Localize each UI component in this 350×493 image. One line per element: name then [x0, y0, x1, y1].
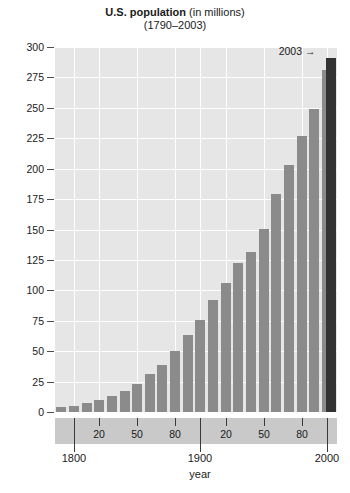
bar: [195, 320, 205, 412]
x-axis-minor-tick: [226, 418, 227, 426]
y-axis-tick-label: 25: [10, 377, 44, 387]
x-axis-minor-tick: [175, 418, 176, 426]
y-axis-tick-mark: [47, 321, 54, 322]
bar: [145, 374, 155, 412]
y-axis-tick-label: 300: [10, 42, 44, 52]
gridline-vertical: [74, 47, 75, 412]
y-axis-tick-label: 200: [10, 164, 44, 174]
gridline-horizontal: [55, 230, 337, 231]
y-axis-tick-mark: [47, 108, 54, 109]
bar: [157, 365, 167, 412]
x-axis-title: year: [170, 468, 230, 481]
y-axis-tick-mark: [47, 199, 54, 200]
x-axis-minor-tick: [264, 418, 265, 426]
annotation-2003: 2003→: [279, 45, 316, 57]
bar: [221, 283, 231, 412]
bar: [284, 165, 294, 412]
chart-title-subtext: (in millions): [186, 6, 245, 18]
y-axis-tick-mark: [47, 351, 54, 352]
bar: [259, 229, 269, 412]
y-axis-tick-mark: [47, 169, 54, 170]
x-axis-minor-label: 20: [211, 428, 241, 440]
bar: [132, 384, 142, 412]
gridline-horizontal: [55, 108, 337, 109]
gridline-horizontal: [55, 77, 337, 78]
bar: [271, 194, 281, 412]
gridline-vertical: [137, 47, 138, 412]
arrow-right-icon: →: [305, 45, 316, 57]
x-axis-minor-tick: [302, 418, 303, 426]
x-axis-minor-tick: [137, 418, 138, 426]
x-axis-major-tick: [327, 418, 328, 452]
gridline-horizontal: [55, 138, 337, 139]
annotation-label: 2003: [279, 45, 302, 57]
bar: [297, 136, 307, 412]
population-bar-chart: U.S. population (in millions) (1790–2003…: [0, 0, 350, 493]
x-axis-major-tick: [200, 418, 201, 452]
y-axis-tick-label: 100: [10, 285, 44, 295]
chart-title-main: U.S. population: [105, 6, 186, 18]
x-axis-strip: 205080205080: [55, 418, 337, 444]
x-axis-minor-label: 80: [160, 428, 190, 440]
x-axis-major-tick: [74, 418, 75, 452]
gridline-horizontal: [55, 290, 337, 291]
bar: [94, 400, 104, 412]
y-axis-tick-label: 75: [10, 316, 44, 326]
y-axis-tick-label: 225: [10, 133, 44, 143]
x-axis-major-label: 1800: [49, 452, 99, 465]
y-axis-tick-mark: [47, 47, 54, 48]
plot-area: [55, 47, 337, 412]
y-axis-tick-label: 50: [10, 346, 44, 356]
x-axis-major-label: 2000: [302, 452, 350, 465]
y-axis-tick-mark: [47, 77, 54, 78]
x-axis-minor-label: 80: [287, 428, 317, 440]
y-axis-tick-label: 0: [10, 407, 44, 417]
gridline-horizontal: [55, 260, 337, 261]
bar: [326, 58, 336, 412]
x-axis-minor-tick: [99, 418, 100, 426]
y-axis-tick-mark: [47, 230, 54, 231]
chart-title-block: U.S. population (in millions) (1790–2003…: [0, 6, 350, 32]
bar: [56, 407, 66, 412]
gridline-horizontal: [55, 169, 337, 170]
bar: [107, 396, 117, 412]
bar: [208, 300, 218, 412]
y-axis-tick-label: 175: [10, 194, 44, 204]
bar: [246, 252, 256, 412]
y-axis-tick-label: 275: [10, 72, 44, 82]
bar: [120, 391, 130, 412]
gridline-horizontal: [55, 199, 337, 200]
bar: [183, 335, 193, 412]
x-axis-minor-label: 20: [84, 428, 114, 440]
y-axis-tick-mark: [47, 260, 54, 261]
y-axis-tick-mark: [47, 138, 54, 139]
bar: [82, 403, 92, 412]
y-axis-tick-mark: [47, 290, 54, 291]
chart-title: U.S. population (in millions): [0, 6, 350, 19]
bar: [309, 109, 319, 412]
chart-subtitle: (1790–2003): [0, 19, 350, 32]
x-axis-major-label: 1900: [175, 452, 225, 465]
gridline-vertical: [99, 47, 100, 412]
y-axis-tick-mark: [47, 412, 54, 413]
y-axis-tick-mark: [47, 382, 54, 383]
y-axis-tick-label: 125: [10, 255, 44, 265]
bar: [170, 351, 180, 412]
x-axis-minor-label: 50: [249, 428, 279, 440]
y-axis-tick-label: 150: [10, 225, 44, 235]
y-axis-tick-label: 250: [10, 103, 44, 113]
bar: [233, 263, 243, 412]
bar: [69, 406, 79, 412]
x-axis-minor-label: 50: [122, 428, 152, 440]
